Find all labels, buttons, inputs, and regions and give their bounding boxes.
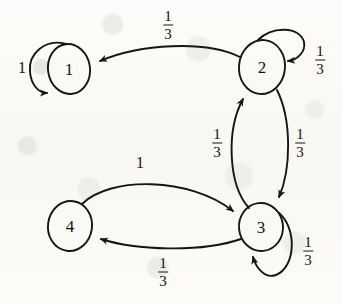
fraction-one-third: 1 3 — [315, 44, 325, 77]
edge-label-2-to-1: 1 3 — [163, 9, 173, 42]
fraction-one-third: 1 3 — [295, 127, 305, 160]
fraction-numerator: 1 — [315, 44, 325, 61]
edge-3-to-4 — [101, 239, 241, 248]
edge-label-3-to-2: 1 3 — [212, 127, 222, 160]
node-label-2: 2 — [258, 59, 267, 76]
fraction-numerator: 1 — [303, 235, 313, 252]
fraction-numerator: 1 — [163, 9, 173, 26]
node-label-4: 4 — [66, 218, 75, 235]
markov-chain-diagram: 1 2 3 4 1 1 3 1 3 1 3 1 3 1 3 1 — [0, 0, 342, 304]
edge-label-3-to-4: 1 3 — [158, 256, 168, 289]
graph-canvas — [0, 0, 342, 304]
edge-2-to-2 — [258, 30, 304, 61]
edge-label-2-to-2: 1 3 — [315, 44, 325, 77]
edge-label-2-to-3: 1 3 — [295, 127, 305, 160]
fraction-numerator: 1 — [212, 127, 222, 144]
edge-4-to-3 — [82, 184, 233, 211]
fraction-one-third: 1 3 — [158, 256, 168, 289]
node-label-1: 1 — [65, 61, 74, 78]
fraction-denominator: 3 — [315, 61, 325, 77]
fraction-numerator: 1 — [158, 256, 168, 273]
edge-3-to-2 — [232, 99, 249, 208]
fraction-one-third: 1 3 — [212, 127, 222, 160]
fraction-denominator: 3 — [303, 252, 313, 268]
edge-label-1-to-1: 1 — [18, 60, 26, 76]
fraction-one-third: 1 3 — [163, 9, 173, 42]
node-label-3: 3 — [257, 219, 266, 236]
fraction-numerator: 1 — [295, 127, 305, 144]
fraction-one-third: 1 3 — [303, 235, 313, 268]
fraction-denominator: 3 — [163, 26, 173, 42]
edge-2-to-1 — [100, 46, 240, 61]
fraction-denominator: 3 — [158, 273, 168, 289]
edge-label-4-to-3: 1 — [136, 155, 144, 171]
edge-label-3-to-3: 1 3 — [303, 235, 313, 268]
fraction-denominator: 3 — [295, 144, 305, 160]
fraction-denominator: 3 — [212, 144, 222, 160]
edge-2-to-3 — [277, 90, 288, 197]
